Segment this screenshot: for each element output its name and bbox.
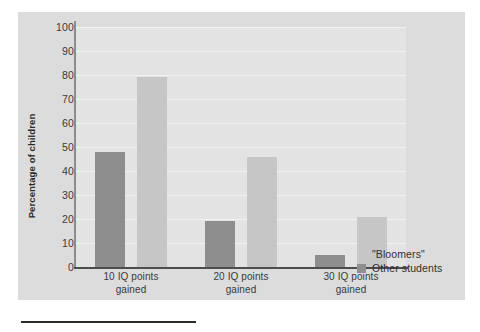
y-tick-10: 10: [28, 237, 74, 249]
bar-group-30iq: [296, 27, 406, 267]
legend-swatch-other-students: [357, 264, 366, 273]
x-tick-20iq-line1: 20 IQ points: [186, 271, 296, 284]
footer-rule: [21, 321, 196, 323]
legend-swatch-bloomers: [357, 250, 366, 259]
x-tick-20iq: 20 IQ points gained: [186, 271, 296, 296]
x-tick-30iq-line2: gained: [296, 284, 406, 297]
legend-label-other-students: Other students: [372, 262, 442, 274]
y-tick-100: 100: [28, 21, 74, 33]
x-tick-10iq-line2: gained: [76, 284, 186, 297]
legend: "Bloomers" Other students: [357, 247, 442, 275]
bar-bloomers-10iq: [137, 77, 167, 267]
bar-group-10iq: [76, 27, 186, 267]
bar-group-20iq: [186, 27, 296, 267]
legend-item-other-students: Other students: [357, 261, 442, 275]
y-tick-70: 70: [28, 93, 74, 105]
y-axis-title: Percentage of children: [26, 114, 37, 219]
bar-bloomers-20iq: [247, 157, 277, 267]
bar-other-students-30iq: [315, 255, 345, 267]
plot-wrapper: 100 90 80 70 60 50 40 30 20 10 0: [76, 27, 406, 267]
bar-other-students-10iq: [95, 152, 125, 267]
x-tick-20iq-line2: gained: [186, 284, 296, 297]
y-tick-90: 90: [28, 45, 74, 57]
x-tick-10iq: 10 IQ points gained: [76, 271, 186, 296]
y-tick-80: 80: [28, 69, 74, 81]
figure-container: 100 90 80 70 60 50 40 30 20 10 0: [0, 0, 480, 332]
x-tick-10iq-line1: 10 IQ points: [76, 271, 186, 284]
bar-groups: [76, 27, 406, 267]
bar-other-students-20iq: [205, 221, 235, 267]
legend-label-bloomers: "Bloomers": [372, 248, 425, 260]
legend-item-bloomers: "Bloomers": [357, 247, 442, 261]
y-tick-0: 0: [28, 261, 74, 273]
